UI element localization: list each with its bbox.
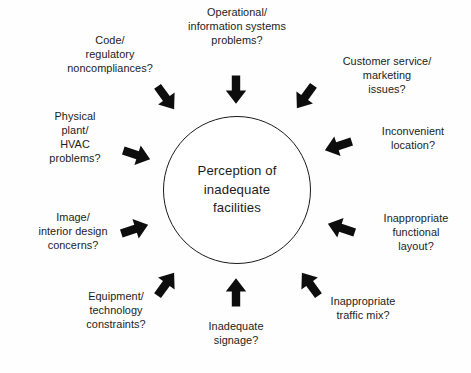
label-traffic-mix: Inappropriate traffic mix? [301, 295, 425, 323]
radial-diagram: Perception of inadequate facilities Oper… [0, 0, 471, 373]
label-equipment-technology: Equipment/ technology constraints? [53, 290, 179, 332]
label-customer-service: Customer service/ marketing issues? [312, 55, 462, 97]
arrow-operational [221, 75, 251, 105]
label-image-interior-design: Image/ interior design concerns? [12, 211, 134, 253]
arrow-inconvenient-location [319, 127, 357, 165]
label-inconvenient-location: Inconvenient location? [357, 125, 469, 153]
arrow-signage [221, 277, 251, 307]
arrow-functional-layout [322, 209, 360, 247]
label-operational: Operational/ information systems problem… [157, 6, 317, 48]
label-signage: Inadequate signage? [180, 320, 292, 348]
center-node-label: Perception of inadequate facilities [197, 162, 276, 218]
label-physical-plant: Physical plant/ HVAC problems? [20, 110, 130, 166]
label-code-regulatory: Code/ regulatory noncompliances? [42, 34, 178, 76]
center-node: Perception of inadequate facilities [163, 116, 311, 264]
arrow-code-regulatory [145, 77, 187, 119]
label-functional-layout: Inappropriate functional layout? [362, 212, 470, 254]
